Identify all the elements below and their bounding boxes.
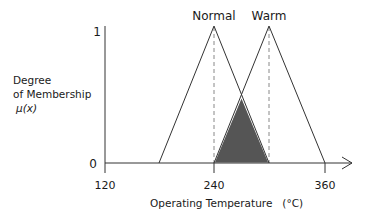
y-tick-1: 1	[93, 25, 101, 39]
set-label-normal: Normal	[192, 9, 235, 23]
x-tick-120: 120	[95, 179, 116, 192]
y-axis-label-line1: Degree	[13, 74, 51, 86]
y-axis-label-line2: of Membership	[13, 88, 92, 100]
membership-diagram: Normal Warm 1 0 Degree of Membership μ(x…	[0, 0, 366, 220]
x-tick-360: 360	[315, 179, 336, 192]
y-axis-label-line3: μ(x)	[15, 102, 37, 114]
overlap-region	[214, 97, 269, 163]
y-tick-0: 0	[89, 157, 97, 171]
set-label-warm: Warm	[252, 9, 287, 23]
x-tick-240: 240	[204, 179, 225, 192]
x-axis-label: Operating Temperature (°C)	[150, 197, 303, 209]
